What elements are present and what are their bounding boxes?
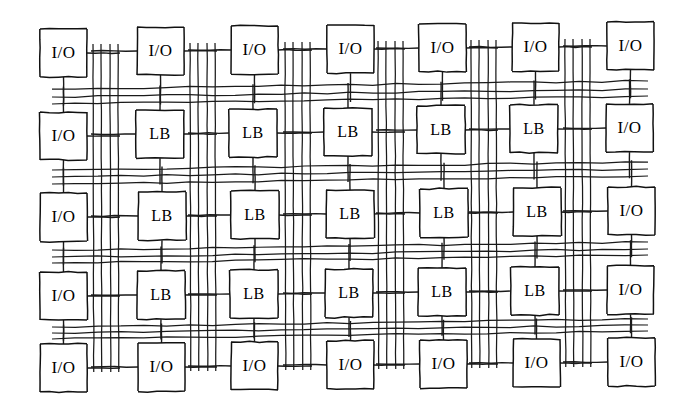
block-label: I/O (148, 41, 172, 60)
block-label: I/O (617, 118, 641, 137)
vertical-wire (207, 43, 208, 371)
io-block[interactable]: I/O (327, 25, 374, 74)
block-label: LB (524, 282, 545, 299)
block-pin-left (469, 363, 513, 364)
block-label: LB (151, 207, 172, 224)
block-pin-left (376, 292, 418, 293)
logic-block[interactable]: LB (136, 110, 184, 159)
block-label: I/O (619, 201, 643, 220)
block-label: LB (242, 124, 263, 141)
vertical-wire (471, 40, 472, 368)
logic-block[interactable]: LB (417, 105, 466, 154)
vertical-wire (565, 39, 566, 367)
block-label: LB (433, 204, 454, 221)
vertical-wire (93, 44, 94, 372)
block-label: I/O (51, 358, 75, 377)
block-pin-left (91, 51, 137, 52)
block-label: I/O (51, 207, 75, 226)
logic-block[interactable]: LB (513, 187, 562, 236)
block-pin-left (376, 213, 420, 214)
logic-block[interactable]: LB (420, 188, 469, 238)
io-block[interactable]: I/O (419, 340, 467, 389)
io-block[interactable]: I/O (231, 341, 278, 390)
logic-block[interactable]: LB (418, 268, 466, 317)
block-pin-right (561, 212, 592, 213)
io-block[interactable]: I/O (606, 104, 653, 152)
block-label: I/O (242, 40, 266, 59)
logic-block[interactable]: LB (137, 270, 186, 320)
vertical-wire (118, 44, 119, 372)
vertical-wire (310, 42, 311, 370)
io-block[interactable]: I/O (231, 25, 278, 75)
vertical-wire (386, 41, 387, 369)
io-block[interactable]: I/O (512, 23, 559, 72)
io-block[interactable]: I/O (608, 337, 656, 387)
vertical-wire (190, 43, 191, 371)
vertical-wire (590, 39, 591, 367)
block-pin-right (87, 53, 120, 54)
logic-block[interactable]: LB (325, 268, 373, 318)
io-block[interactable]: I/O (607, 265, 654, 315)
io-block[interactable]: I/O (137, 27, 184, 75)
io-block[interactable]: I/O (40, 28, 87, 77)
io-block[interactable]: I/O (40, 343, 87, 392)
io-block[interactable]: I/O (513, 339, 561, 387)
block-pin-left (469, 212, 513, 213)
vertical-wire (582, 39, 583, 367)
logic-block[interactable]: LB (326, 190, 375, 239)
vertical-wire (496, 40, 497, 368)
fpga-architecture-diagram: I/OI/OI/OI/OI/OI/OI/OI/OLBLBLBLBLBI/OI/O… (0, 0, 684, 412)
block-pin-left (283, 293, 325, 294)
logic-block[interactable]: LB (138, 191, 186, 241)
block-label: I/O (338, 39, 362, 58)
io-block[interactable]: I/O (418, 23, 466, 72)
io-block[interactable]: I/O (40, 272, 88, 320)
block-label: I/O (51, 43, 75, 62)
vertical-wire (395, 41, 396, 369)
block-label: LB (526, 203, 547, 220)
block-pin-left (283, 49, 327, 50)
logic-block[interactable]: LB (510, 267, 559, 316)
block-label: LB (339, 205, 360, 222)
vertical-wire (198, 43, 199, 371)
vertical-wire (285, 42, 286, 370)
block-label: LB (430, 121, 451, 138)
block-label: LB (244, 206, 265, 223)
block-label: I/O (51, 126, 75, 145)
io-block[interactable]: I/O (607, 21, 654, 70)
block-label: I/O (51, 286, 75, 305)
block-label: I/O (242, 356, 266, 375)
block-label: I/O (619, 352, 643, 371)
block-label: LB (523, 120, 544, 137)
vertical-wire (573, 39, 574, 367)
block-grid: I/OI/OI/OI/OI/OI/OI/OI/OLBLBLBLBLBI/OI/O… (39, 21, 655, 392)
logic-block[interactable]: LB (231, 190, 280, 239)
vertical-wire (488, 40, 489, 368)
block-pin-left (188, 366, 231, 367)
block-label: I/O (523, 37, 547, 56)
block-label: LB (338, 284, 359, 301)
logic-block[interactable]: LB (324, 108, 372, 156)
block-label: LB (149, 125, 170, 142)
block-label: I/O (524, 353, 548, 372)
vertical-wire (302, 42, 303, 370)
block-label: LB (243, 285, 264, 302)
vertical-wire (110, 44, 111, 372)
block-pin-left (91, 216, 138, 217)
fpga-diagram-canvas: I/OI/OI/OI/OI/OI/OI/OI/OLBLBLBLBLBI/OI/O… (0, 0, 684, 412)
io-block[interactable]: I/O (608, 186, 656, 235)
block-label: LB (337, 123, 358, 140)
logic-block[interactable]: LB (510, 104, 558, 153)
io-block[interactable]: I/O (138, 343, 185, 393)
logic-block[interactable]: LB (229, 269, 278, 318)
io-block[interactable]: I/O (39, 112, 87, 160)
io-block[interactable]: I/O (327, 340, 374, 389)
io-block[interactable]: I/O (40, 192, 88, 242)
vertical-wire (403, 41, 404, 369)
logic-block[interactable]: LB (229, 109, 278, 158)
block-pin-left (188, 133, 229, 134)
block-pin-right (465, 130, 498, 131)
vertical-wire (101, 44, 102, 372)
block-label: I/O (431, 354, 455, 373)
block-pin-left (563, 362, 608, 363)
